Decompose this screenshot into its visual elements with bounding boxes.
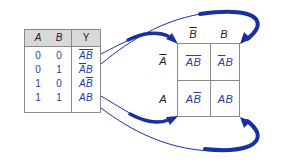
arrow-row0-thick [128, 33, 168, 40]
arrow-row3-thick [205, 121, 258, 150]
arrow-row3-to-bottom-right [101, 108, 258, 151]
arrowhead-bottom-right [240, 117, 251, 128]
arrowhead-top-right [240, 32, 251, 44]
arrow-row1-thick [200, 12, 258, 39]
arrow-row1-to-top-right [101, 12, 258, 64]
kmap-diagram: A B Y 00AB01AB10AB11AB BB AA ABABABAB [0, 0, 282, 162]
arrow-row2-thick [130, 114, 168, 122]
mapping-arrows [0, 0, 282, 162]
arrowhead-bottom-left [166, 116, 178, 125]
